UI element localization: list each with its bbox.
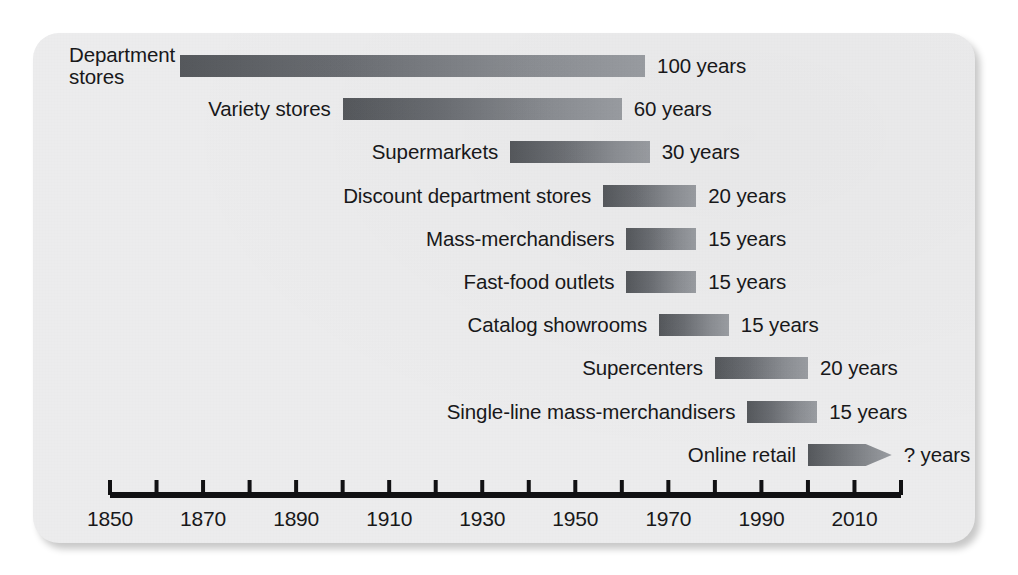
bar: [659, 314, 729, 336]
bar-row: Online retail? years: [33, 440, 975, 470]
bar-row: Supercenters20 years: [33, 353, 975, 383]
bar: [603, 185, 696, 207]
bar-row: Variety stores60 years: [33, 94, 975, 124]
bar-row-label: Mass-merchandisers: [426, 228, 614, 250]
bar-row-label: Department stores: [69, 44, 175, 87]
bar-value-label: 15 years: [708, 227, 786, 251]
bar-row-label: Fast-food outlets: [463, 271, 614, 293]
bar-value-label: 15 years: [741, 313, 819, 337]
bar-row-label: Variety stores: [208, 98, 330, 120]
bar-value-label: 30 years: [662, 140, 740, 164]
bar: [180, 55, 645, 77]
bar-row: Mass-merchandisers15 years: [33, 224, 975, 254]
bar: [626, 271, 696, 293]
bar-chart-plot: Department stores100 yearsVariety stores…: [33, 33, 975, 543]
x-axis-tick-label: 1950: [552, 507, 598, 531]
bar: [747, 401, 817, 423]
bar-row: Single-line mass-merchandisers15 years: [33, 397, 975, 427]
x-axis-tick-label: 1910: [366, 507, 412, 531]
bar: [626, 228, 696, 250]
bar-value-label: 20 years: [820, 356, 898, 380]
bar-row-label: Supercenters: [582, 358, 703, 380]
bar-row-label: Catalog showrooms: [468, 314, 647, 336]
bar: [715, 357, 808, 379]
figure-card: Department stores100 yearsVariety stores…: [33, 33, 975, 543]
x-axis-tick-label: 1990: [738, 507, 784, 531]
bar-value-label: 100 years: [657, 54, 746, 78]
bar-row: Supermarkets30 years: [33, 137, 975, 167]
bar: [343, 98, 622, 120]
bar-row-label: Discount department stores: [343, 185, 591, 207]
bar-row-label: Online retail: [688, 444, 796, 466]
bar-value-label: ? years: [904, 443, 971, 467]
x-axis-tick-label: 1890: [273, 507, 319, 531]
x-axis-tick-label: 1850: [87, 507, 133, 531]
bar-arrow: [808, 444, 892, 466]
bar-value-label: 60 years: [634, 97, 712, 121]
x-axis-tick-label: 2010: [832, 507, 878, 531]
bar: [510, 141, 650, 163]
bar-row: Fast-food outlets15 years: [33, 267, 975, 297]
bar-value-label: 20 years: [708, 184, 786, 208]
bar-row: Discount department stores20 years: [33, 181, 975, 211]
x-axis-tick-label: 1970: [645, 507, 691, 531]
bar-row: Department stores100 years: [33, 51, 975, 81]
bar-row-label: Supermarkets: [372, 142, 498, 164]
bar-value-label: 15 years: [829, 400, 907, 424]
bar-row-label: Single-line mass-merchandisers: [447, 401, 736, 423]
bar-value-label: 15 years: [708, 270, 786, 294]
bar-row: Catalog showrooms15 years: [33, 310, 975, 340]
x-axis-tick-label: 1930: [459, 507, 505, 531]
x-axis-tick-label: 1870: [180, 507, 226, 531]
